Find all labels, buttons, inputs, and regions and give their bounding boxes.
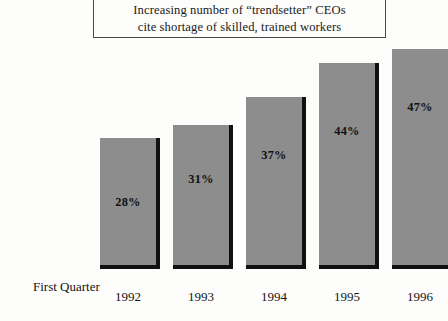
bar-group-1995: 44% [319, 0, 375, 265]
bar-group-1993: 31% [173, 0, 229, 265]
x-axis-title: First Quarter [33, 279, 100, 295]
x-tick-label-1996: 1996 [392, 289, 448, 305]
x-tick-label-1992: 1992 [100, 289, 156, 305]
x-tick-label-1995: 1995 [319, 289, 375, 305]
bar-1995[interactable]: 44% [319, 63, 375, 265]
bar-group-1992: 28% [100, 0, 156, 265]
bar-1993[interactable]: 31% [173, 125, 229, 265]
bar-group-1994: 37% [246, 0, 302, 265]
bar-1996[interactable]: 47% [392, 49, 448, 265]
bar-value-label-1996: 47% [392, 100, 448, 115]
bar-value-label-1995: 44% [319, 124, 375, 139]
bar-value-label-1992: 28% [100, 195, 156, 210]
x-tick-label-1994: 1994 [246, 289, 302, 305]
bar-1992[interactable]: 28% [100, 138, 156, 265]
bar-group-1996: 47% [392, 0, 448, 265]
bar-value-label-1993: 31% [173, 172, 229, 187]
x-tick-label-1993: 1993 [173, 289, 229, 305]
bar-value-label-1994: 37% [246, 148, 302, 163]
bar-1994[interactable]: 37% [246, 97, 302, 265]
